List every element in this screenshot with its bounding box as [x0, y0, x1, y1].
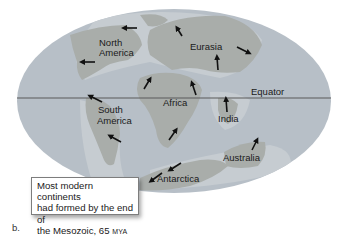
caption-text: the Mesozoic, 65 [37, 225, 112, 236]
south-america-label: America [97, 115, 133, 126]
caption-unit: MYA [112, 228, 127, 235]
north-america-label: America [99, 47, 135, 58]
equator-label: Equator [251, 86, 284, 97]
australia-label: Australia [223, 152, 261, 163]
antarctica-label: Antarctica [157, 173, 200, 184]
caption-line: had formed by the end of [37, 202, 138, 224]
caption-line: the Mesozoic, 65 MYA [37, 225, 138, 237]
south-america-label: South [98, 104, 123, 115]
india-label: India [218, 113, 239, 124]
caption-box: Most modern continents had formed by the… [31, 177, 139, 215]
africa-label: Africa [163, 97, 188, 108]
panel-label: b. [12, 222, 20, 233]
eurasia-label: Eurasia [190, 41, 223, 52]
arrow-icon [226, 99, 227, 112]
arrow-icon [217, 57, 218, 70]
caption-line: Most modern continents [37, 180, 138, 202]
